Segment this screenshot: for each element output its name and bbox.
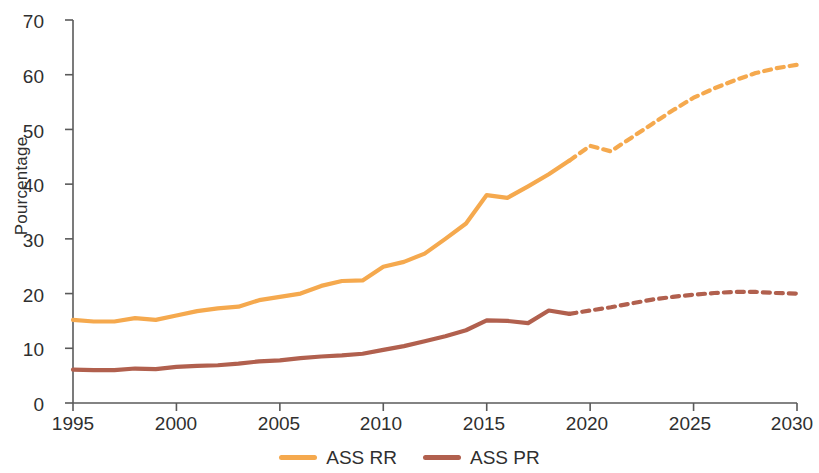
series-line-ass-pr-projected <box>569 292 797 314</box>
x-axis-ticks <box>73 403 797 411</box>
legend-swatch-ass-rr <box>279 455 317 460</box>
legend-swatch-ass-pr <box>423 455 461 460</box>
y-axis-ticks <box>65 20 73 403</box>
series-line-ass-rr-projected <box>569 65 797 161</box>
data-series-layer <box>73 65 797 370</box>
legend-item-ass-pr[interactable]: ASS PR <box>423 448 540 467</box>
legend-label-ass-pr: ASS PR <box>470 448 540 467</box>
plot-area <box>0 0 819 473</box>
axis-lines <box>73 20 797 403</box>
series-line-ass-rr-observed <box>73 161 569 322</box>
line-chart-figure: Pourcentage 70 60 50 40 30 20 10 0 1995 … <box>0 0 819 473</box>
chart-legend: ASS RR ASS PR <box>0 448 819 467</box>
legend-label-ass-rr: ASS RR <box>326 448 397 467</box>
legend-item-ass-rr[interactable]: ASS RR <box>279 448 397 467</box>
